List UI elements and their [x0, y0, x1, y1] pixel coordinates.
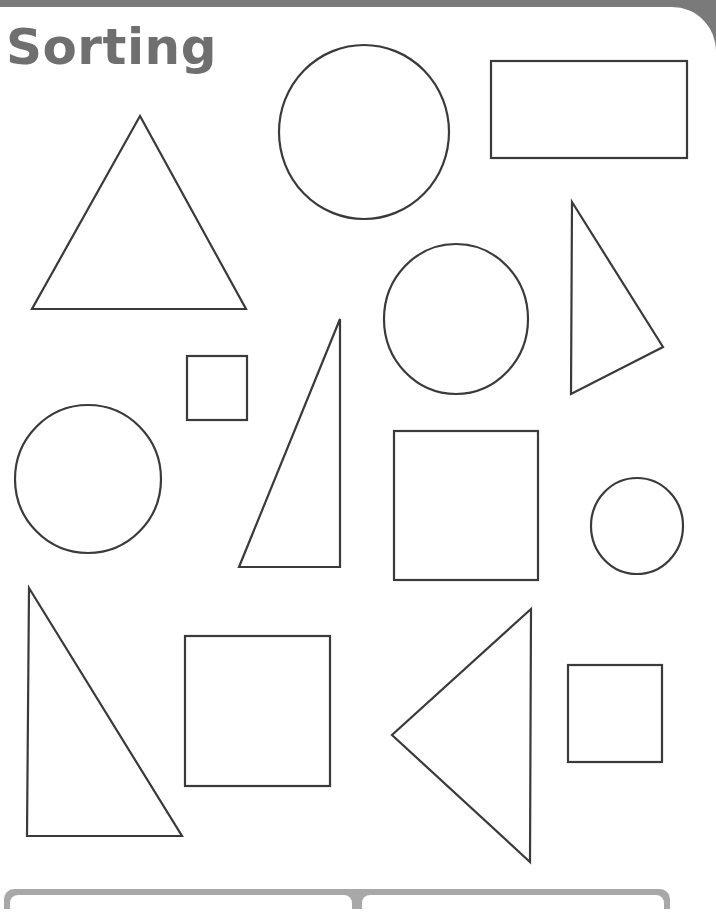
- square-shape-14: [568, 665, 662, 762]
- square-shape-12: [185, 636, 330, 786]
- square-shape-6: [187, 356, 247, 420]
- circle-shape-10: [591, 478, 683, 574]
- triangle-shape-5: [571, 202, 663, 394]
- bottom-panel-right: [362, 895, 664, 913]
- circle-shape-8: [15, 405, 161, 553]
- bottom-panel-left: [10, 895, 352, 913]
- circle-shape-4: [384, 244, 528, 394]
- triangle-shape-11: [27, 588, 182, 836]
- triangle-shape-13: [392, 609, 531, 862]
- square-shape-9: [394, 431, 538, 580]
- rectangle-shape-3: [491, 61, 687, 158]
- circle-shape-2: [279, 45, 449, 219]
- triangle-shape-1: [32, 116, 246, 309]
- triangle-shape-7: [239, 319, 340, 567]
